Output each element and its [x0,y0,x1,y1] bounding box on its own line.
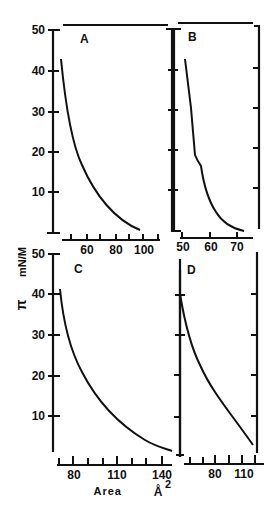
x-tick-label: 110 [234,467,254,481]
panel-label-b: B [188,30,197,44]
x-axis-unit-symbol: Å [154,484,163,499]
y-axis-title: π mN/M [13,247,29,310]
x-tick-label: 70 [230,240,244,254]
pressure-area-isotherm-figure: 50 40 30 20 10 A 60 80 100 [0,0,277,513]
y-tick-label: 40 [32,287,46,301]
y-tick-label: 30 [32,105,46,119]
y-axis-symbol: π [13,299,29,310]
isotherm-curve-a [61,59,140,230]
y-tick-label: 50 [32,247,46,261]
x-tick-label: 110 [107,468,127,482]
y-tick-label: 10 [32,185,46,199]
y-tick-label: 30 [32,328,46,342]
x-tick-label: 60 [80,243,94,257]
x-axis-unit-exponent: 2 [165,478,171,490]
isotherm-curve-d [180,294,253,445]
x-tick-label: 100 [134,243,154,257]
panel-label-a: A [80,32,89,46]
chart-canvas: 50 40 30 20 10 A 60 80 100 [0,0,277,513]
x-tick-label: 80 [208,467,222,481]
y-axis-top: 50 40 30 20 10 [32,23,60,234]
isotherm-curve-c [60,289,172,451]
panel-b: B 50 60 70 [168,23,260,254]
panel-d: D 80 110 [175,252,264,481]
panel-label-d: D [187,263,196,277]
y-tick-label: 20 [32,369,46,383]
y-axis-unit: mN/M [16,247,28,277]
x-axis-word: Area [94,485,122,497]
x-tick-label: 60 [204,240,218,254]
isotherm-curve-b [185,59,244,231]
panel-c: C 80 110 140 [57,262,184,482]
panel-label-c: C [74,262,83,276]
panel-a: A 60 80 100 [61,25,178,257]
y-tick-label: 50 [32,23,46,37]
y-axis-bottom: 50 40 30 20 10 [32,247,60,452]
x-tick-label: 80 [67,468,81,482]
y-tick-label: 20 [32,145,46,159]
x-tick-label: 50 [176,240,190,254]
y-tick-label: 10 [32,409,46,423]
x-tick-label: 80 [109,243,123,257]
y-tick-label: 40 [32,64,46,78]
